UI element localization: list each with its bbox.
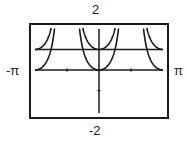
graph-screen bbox=[0, 0, 187, 142]
